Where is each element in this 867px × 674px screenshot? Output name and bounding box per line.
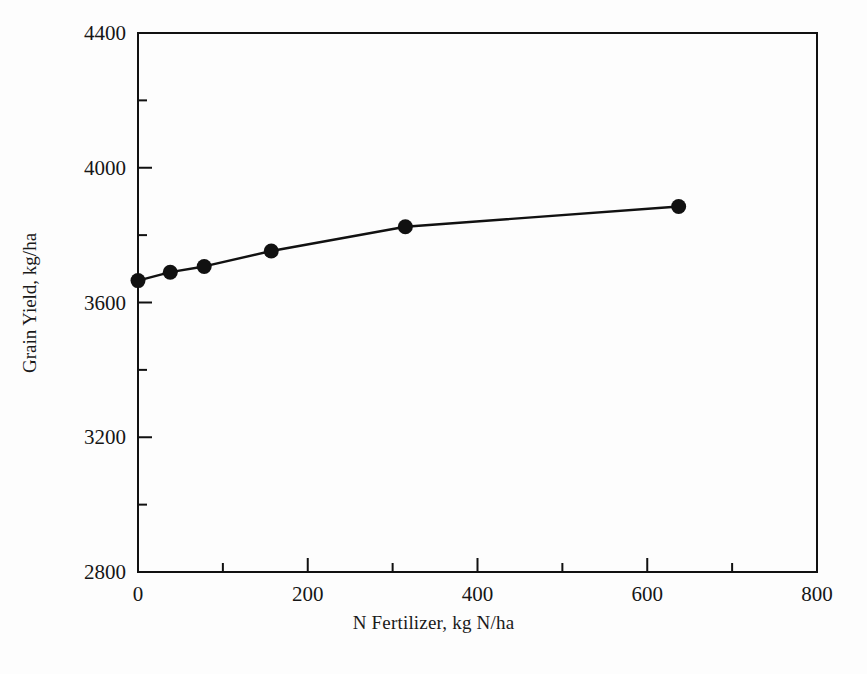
x-tick-label: 600 xyxy=(632,582,664,607)
x-axis-title: N Fertilizer, kg N/ha xyxy=(0,612,867,634)
data-point-marker xyxy=(398,219,413,234)
figure-page: 28003200360040004400 0200400600800 N Fer… xyxy=(0,0,867,674)
chart-figure: 28003200360040004400 0200400600800 N Fer… xyxy=(0,0,867,674)
x-tick-label: 200 xyxy=(292,582,324,607)
data-point-marker xyxy=(197,259,212,274)
axis-tick-marks xyxy=(138,33,817,572)
y-axis-title-container: Grain Yield, kg/ha xyxy=(0,0,60,605)
data-point-marker xyxy=(163,265,178,280)
series-polyline xyxy=(138,206,679,280)
x-tick-label: 400 xyxy=(462,582,494,607)
plot-frame xyxy=(138,33,817,572)
y-axis-title: Grain Yield, kg/ha xyxy=(19,232,41,372)
x-tick-label: 800 xyxy=(801,582,833,607)
data-point-marker xyxy=(671,199,686,214)
x-tick-label: 0 xyxy=(133,582,144,607)
data-point-marker xyxy=(131,273,146,288)
series-line xyxy=(138,206,679,280)
data-point-marker xyxy=(264,243,279,258)
chart-plot-area xyxy=(0,0,867,674)
